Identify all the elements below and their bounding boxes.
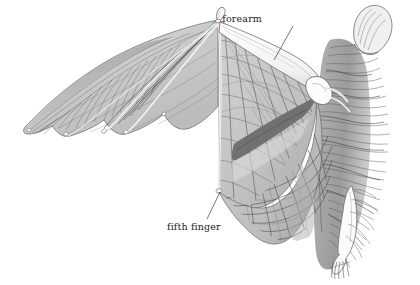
forearm-label-text: forearm — [222, 13, 262, 24]
bat-wing-illustration: forearm fifth finger — [0, 0, 420, 285]
fifth-finger-label-text: fifth finger — [167, 221, 221, 232]
